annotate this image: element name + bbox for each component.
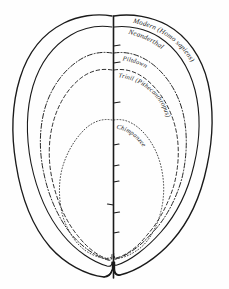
- label-piltdown: Piltdown: [121, 54, 148, 69]
- midline-tick: [114, 144, 120, 145]
- cranial-outlines-svg: Modern (Homo sapiens) Neanderthal Piltdo…: [0, 0, 229, 289]
- curve-chimpanzee-left: [59, 119, 112, 258]
- midline-tick: [114, 102, 121, 103]
- midline-tick: [114, 62, 121, 63]
- curve-piltdown-left: [40, 52, 112, 260]
- label-chimpanzee: Chimpanzee: [116, 123, 148, 148]
- midline-tick: [114, 212, 120, 213]
- midline-tick: [108, 204, 114, 205]
- midline-tick: [114, 165, 120, 166]
- curve-trinil-left: [49, 69, 112, 259]
- midline-tick: [114, 45, 121, 46]
- curve-modern-left: [13, 15, 112, 277]
- cranial-comparison-figure: Modern (Homo sapiens) Neanderthal Piltdo…: [0, 0, 229, 289]
- midline-tick: [114, 232, 120, 233]
- midline-tick: [114, 181, 120, 182]
- curve-trinil-right: [114, 69, 178, 258]
